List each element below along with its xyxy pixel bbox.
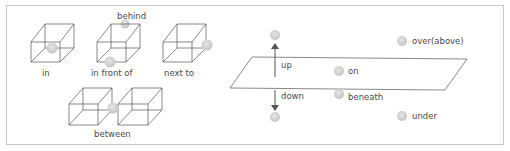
label-up: up [281,60,292,70]
ball-in [47,43,58,54]
ball-over [397,36,407,46]
prepositions-diagram: in behind in front of next to [0,0,510,151]
ball-on [334,66,344,76]
ball-down [270,112,280,122]
label-on: on [348,66,359,76]
ball-in-front-of [105,57,116,68]
label-over: over(above) [412,36,464,46]
label-under: under [412,111,437,121]
label-down: down [281,91,304,101]
ball-under [397,111,407,121]
label-in: in [42,68,50,78]
ball-between [108,103,119,114]
ball-beneath [334,89,344,99]
label-in-front-of: in front of [91,68,134,78]
ball-up [270,30,280,40]
label-between: between [94,129,131,139]
label-beneath: beneath [348,92,383,102]
ball-next-to [202,40,213,51]
diagram-frame [7,6,504,145]
label-next-to: next to [164,68,194,78]
label-behind: behind [117,11,146,21]
